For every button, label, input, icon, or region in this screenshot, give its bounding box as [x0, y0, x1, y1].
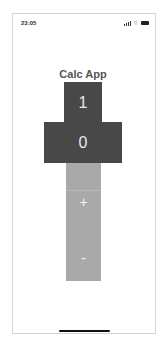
wifi-icon: ⌔: [133, 20, 139, 26]
app-title: Calc App: [0, 68, 166, 80]
home-indicator[interactable]: [59, 330, 110, 332]
keypad: + -: [66, 163, 101, 281]
signal-icon: [124, 21, 131, 26]
display-main: 0: [44, 122, 122, 163]
status-icons: ⌔: [124, 20, 149, 26]
display-top: 1: [64, 82, 102, 123]
battery-icon: [141, 21, 149, 25]
plus-button[interactable]: +: [66, 191, 101, 213]
minus-button[interactable]: -: [66, 247, 101, 269]
status-time: 23:05: [21, 20, 36, 26]
